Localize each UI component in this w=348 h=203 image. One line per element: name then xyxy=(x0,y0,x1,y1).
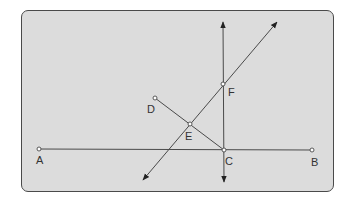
point-e xyxy=(188,122,192,126)
label-d: D xyxy=(147,103,155,115)
label-b: B xyxy=(311,156,318,168)
label-a: A xyxy=(36,154,44,166)
line-through-E-F xyxy=(143,22,277,180)
label-c: C xyxy=(225,155,233,167)
geometry-diagram: ABCDEF xyxy=(0,0,348,203)
point-b xyxy=(310,148,314,152)
point-c xyxy=(222,148,226,152)
label-e: E xyxy=(185,130,192,142)
label-f: F xyxy=(228,86,235,98)
point-d xyxy=(153,96,157,100)
line-through-C-vertical xyxy=(223,22,224,182)
point-f xyxy=(221,82,225,86)
point-a xyxy=(37,147,41,151)
segment-AB xyxy=(39,149,312,150)
